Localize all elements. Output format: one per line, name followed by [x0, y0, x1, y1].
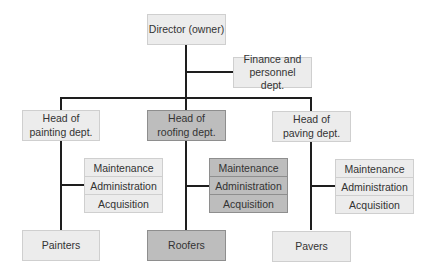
connector-paving-top [310, 97, 312, 111]
head-roofing-label: Head of roofing dept. [156, 112, 217, 138]
connector-roofing-functions [186, 185, 209, 187]
finance-box: Finance and personnel dept. [233, 57, 312, 88]
painting-function-maintenance: Maintenance [85, 159, 162, 176]
head-roofing-box: Head of roofing dept. [147, 110, 226, 141]
painting-functions: Maintenance Administration Acquisition [84, 158, 163, 213]
painters-box: Painters [22, 230, 100, 261]
finance-label: Finance and personnel dept. [238, 53, 307, 92]
paving-function-acquisition: Acquisition [336, 195, 413, 213]
paving-functions: Maintenance Administration Acquisition [335, 159, 414, 214]
connector-finance [186, 71, 233, 73]
roofing-functions: Maintenance Administration Acquisition [209, 158, 288, 213]
roofers-box: Roofers [147, 230, 226, 261]
roofers-label: Roofers [168, 239, 205, 252]
head-paving-label: Head of paving dept. [281, 113, 342, 139]
connector-horizontal [60, 97, 312, 99]
painters-label: Painters [42, 239, 81, 252]
director-label: Director (owner) [149, 23, 224, 36]
roofing-function-maintenance: Maintenance [210, 159, 287, 176]
roofing-function-administration: Administration [210, 176, 287, 194]
head-painting-box: Head of painting dept. [22, 110, 100, 141]
connector-director-down [185, 44, 187, 110]
paving-function-maintenance: Maintenance [336, 160, 413, 177]
connector-paving-functions [311, 185, 335, 187]
org-chart: Director (owner) Finance and personnel d… [0, 0, 434, 275]
roofing-function-acquisition: Acquisition [210, 194, 287, 212]
connector-painting-top [60, 97, 62, 110]
painting-function-acquisition: Acquisition [85, 194, 162, 212]
head-paving-box: Head of paving dept. [272, 111, 351, 142]
connector-painting-functions [61, 184, 84, 186]
paving-function-administration: Administration [336, 177, 413, 195]
director-box: Director (owner) [147, 14, 226, 45]
pavers-label: Pavers [295, 240, 328, 253]
pavers-box: Pavers [272, 231, 351, 262]
head-painting-label: Head of painting dept. [29, 112, 93, 138]
painting-function-administration: Administration [85, 176, 162, 194]
